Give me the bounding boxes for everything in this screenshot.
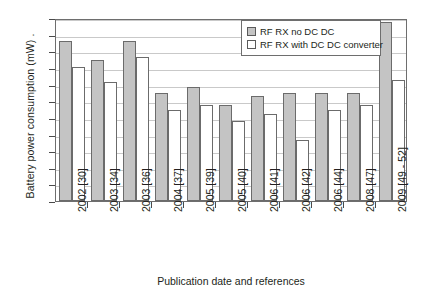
legend-label: RF RX with DC DC converter: [260, 40, 383, 50]
legend-item: RF RX with DC DC converter: [247, 38, 375, 51]
bar-no-dcdc-9: [347, 93, 360, 201]
x-axis-tick-label: 2008 [47]: [364, 136, 376, 212]
x-axis-tick-label: 2003 [36]: [140, 136, 152, 212]
bar-no-dcdc-3: [155, 93, 168, 201]
x-axis-tick-label: 2002 [30]: [76, 136, 88, 212]
legend-label: RF RX no DC DC: [260, 27, 334, 37]
bar-no-dcdc-8: [315, 93, 328, 201]
x-axis-tick-label: 2006 [41]: [268, 136, 280, 212]
y-axis-tick-mark: [49, 202, 55, 203]
legend-swatch-gray-icon: [247, 27, 256, 36]
bar-no-dcdc-5: [219, 105, 232, 201]
bar-no-dcdc-6: [251, 96, 264, 201]
bar-no-dcdc-1: [91, 60, 104, 201]
x-axis-tick-label: 2005 [40]: [236, 136, 248, 212]
x-axis-tick-label: 2009 [49 - 52]: [396, 136, 408, 212]
x-axis-tick-label: 2004 [37]: [172, 136, 184, 212]
legend-item: RF RX no DC DC: [247, 25, 375, 38]
chart-figure: Battery power consumption (mW) . 0204060…: [0, 0, 424, 295]
chart-legend: RF RX no DC DC RF RX with DC DC converte…: [241, 20, 381, 56]
x-axis-tick-label: 2006 [44]: [332, 136, 344, 212]
x-axis-tick-label: 2005 [39]: [204, 136, 216, 212]
bar-no-dcdc-4: [187, 87, 200, 201]
y-axis-title: Battery power consumption (mW) .: [24, 9, 40, 224]
x-axis-tick-label: 2006 [42]: [300, 136, 312, 212]
bar-no-dcdc-7: [283, 93, 296, 201]
legend-swatch-white-icon: [247, 40, 256, 49]
bar-no-dcdc-2: [123, 41, 136, 201]
bar-no-dcdc-0: [59, 41, 72, 201]
x-axis-tick-label: 2003 [34]: [108, 136, 120, 212]
x-axis-title: Publication date and references: [55, 275, 407, 287]
